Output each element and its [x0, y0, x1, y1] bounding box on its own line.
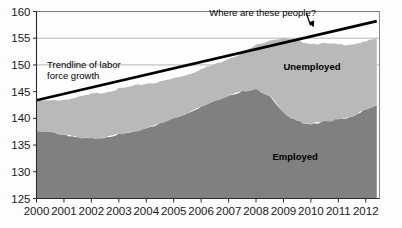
- y-tick-label-135: 135: [11, 139, 30, 151]
- x-tick-label-2002: 2002: [79, 205, 105, 217]
- y-tick-label-125: 125: [11, 193, 30, 205]
- x-tick-label-2010: 2010: [298, 205, 324, 217]
- x-tick-label-2012: 2012: [353, 205, 379, 217]
- x-tick-label-2003: 2003: [106, 205, 132, 217]
- x-tick-label-2005: 2005: [161, 205, 187, 217]
- x-tick-label-2006: 2006: [188, 205, 214, 217]
- y-tick-label-140: 140: [11, 112, 30, 124]
- y-tick-label-150: 150: [11, 59, 30, 71]
- gap-annotation-text: Where are these people?: [209, 7, 316, 18]
- series-label-unemployed: Unemployed: [283, 61, 340, 72]
- x-tick-label-2001: 2001: [51, 205, 77, 217]
- series-label-employed: Employed: [272, 151, 318, 162]
- labor-force-chart: 125130135140145150155160 200020012002200…: [0, 0, 402, 228]
- y-tick-label-160: 160: [11, 6, 30, 18]
- trendline-annotation-line-2: force growth: [47, 70, 99, 81]
- y-tick-label-155: 155: [11, 32, 30, 44]
- x-tick-label-2004: 2004: [133, 205, 159, 217]
- x-tick-label-2008: 2008: [243, 205, 269, 217]
- x-tick-label-2007: 2007: [216, 205, 242, 217]
- chart-canvas: 125130135140145150155160 200020012002200…: [0, 0, 402, 228]
- x-tick-label-2011: 2011: [326, 205, 351, 217]
- x-tick-label-2000: 2000: [24, 205, 50, 217]
- y-tick-label-145: 145: [11, 86, 30, 98]
- y-tick-label-130: 130: [11, 166, 30, 178]
- trendline-annotation-line-1: Trendline of labor: [47, 59, 121, 70]
- x-tick-label-2009: 2009: [271, 205, 297, 217]
